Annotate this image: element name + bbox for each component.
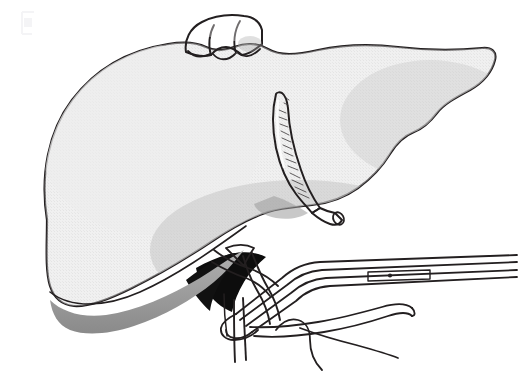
forceps-rivet bbox=[388, 273, 392, 277]
common-bile-duct-left bbox=[234, 300, 235, 362]
illustration-canvas: Liver with gallbladder exposed, hand ret… bbox=[0, 0, 519, 375]
liver-gallbladder-illustration bbox=[0, 0, 519, 375]
